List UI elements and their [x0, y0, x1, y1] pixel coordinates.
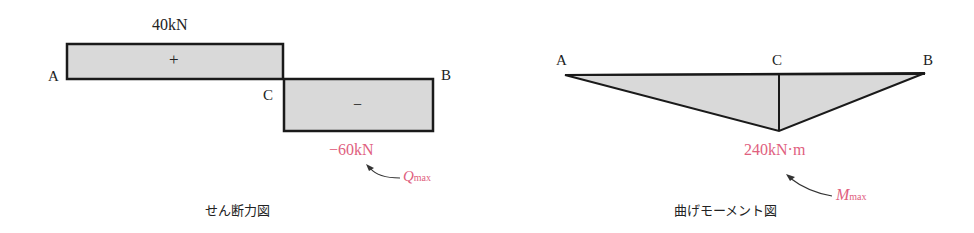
- shear-point-b: B: [441, 67, 451, 84]
- shear-point-c: C: [263, 87, 273, 104]
- moment-point-a: A: [556, 52, 567, 69]
- shear-positive-sign: +: [169, 50, 179, 70]
- mmax-arrow: [790, 178, 832, 196]
- qmax-arrowhead-icon: [366, 164, 374, 171]
- mmax-subscript: max: [849, 191, 866, 202]
- moment-diagram-title: 曲げモーメント図: [674, 200, 777, 219]
- moment-region: [565, 73, 925, 131]
- mmax-symbol: M: [836, 186, 849, 203]
- mmax-label: Mmax: [836, 186, 867, 204]
- moment-baseline: [565, 74, 925, 75]
- qmax-arrow: [370, 168, 400, 178]
- qmax-label: Qmax: [403, 168, 431, 185]
- moment-max-value: 240kN·m: [744, 141, 805, 159]
- qmax-subscript: max: [414, 172, 431, 183]
- moment-point-b: B: [923, 52, 933, 69]
- moment-point-c: C: [772, 52, 782, 69]
- shear-negative-sign: −: [353, 96, 362, 114]
- shear-diagram-title: せん断力図: [205, 200, 270, 219]
- mmax-arrowhead-icon: [786, 174, 795, 181]
- qmax-symbol: Q: [403, 168, 414, 184]
- diagram-canvas: [0, 0, 974, 233]
- shear-negative-value: −60kN: [329, 141, 374, 159]
- shear-positive-value: 40kN: [152, 16, 188, 34]
- shear-point-a: A: [48, 68, 59, 85]
